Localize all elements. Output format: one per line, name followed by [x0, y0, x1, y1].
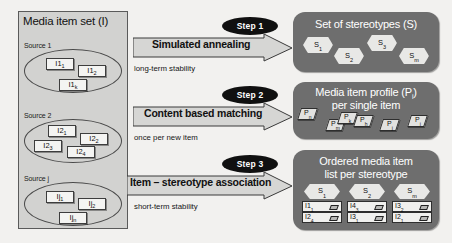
diagram-canvas: Media item set (I) Source 1 I11 I12 I1k …: [0, 0, 452, 243]
media-item: I24: [67, 146, 95, 158]
media-item-label: I1k: [68, 81, 77, 89]
step-2-badge: Step 2: [222, 86, 278, 104]
media-glyph-icon: [419, 216, 429, 221]
list-item: I32: [392, 201, 432, 212]
media-item-label: I12: [87, 67, 96, 75]
media-item: Ijn: [59, 212, 87, 224]
media-item-label: I21: [57, 127, 66, 135]
media-item: I22: [80, 133, 108, 145]
media-glyph-icon: [419, 205, 429, 210]
step-2-note: once per new item: [134, 133, 198, 142]
media-glyph-icon: [374, 216, 384, 221]
source-label-2: Source 2: [24, 112, 51, 119]
stereotype-set-panel: Set of stereotypes (S) S1 S2 S3 Sm: [293, 12, 439, 72]
list-item: I11: [302, 201, 342, 212]
media-item-label: Ij1: [57, 193, 64, 201]
stereotype-hexagon: S2: [334, 48, 364, 64]
ordered-media-item-list-panel: Ordered media item list per stereotype S…: [293, 150, 439, 230]
media-item: Ij2: [78, 198, 106, 210]
media-item-label: I11: [55, 60, 64, 68]
media-item: I11: [46, 58, 74, 70]
media-item-set-panel: Media item set (I) Source 1 I11 I12 I1k …: [18, 11, 128, 229]
list-item: I43: [347, 201, 387, 212]
step-3-badge: Step 3: [222, 155, 278, 173]
stereotype-hexagon: Sm: [399, 48, 429, 64]
stereotype-hexagon: S1: [303, 37, 333, 53]
media-item: I23: [34, 140, 62, 152]
media-glyph-icon: [329, 205, 339, 210]
source-label-1: Source 1: [24, 42, 51, 49]
ordered-list-title-line-1: Ordered media item: [293, 155, 439, 167]
media-item: I21: [48, 125, 76, 137]
list-item: I21: [392, 212, 432, 223]
stereotype-hexagon: S2: [349, 184, 385, 199]
profile-parallelogram: Pi: [407, 115, 428, 127]
step-2-label: Content based matching: [144, 107, 262, 119]
stereotype-hexagon: S1: [304, 184, 340, 199]
media-item: I12: [78, 65, 106, 77]
list-item: I24: [302, 212, 342, 223]
stereotype-hexagon: S3: [367, 35, 397, 51]
ordered-list-title-line-2: list per stereotype: [293, 168, 439, 180]
media-item-label: Ijn: [70, 214, 77, 222]
source-label-j: Source j: [24, 175, 49, 182]
step-1-badge: Step 1: [222, 17, 278, 35]
media-item-label: I24: [76, 148, 85, 156]
stereotype-hexagon: Sm: [394, 184, 430, 199]
media-item-set-title: Media item set (I): [23, 15, 108, 27]
stereotype-set-title: Set of stereotypes (S): [293, 18, 439, 30]
media-item: Ij1: [46, 191, 74, 203]
step-3-label: Item – stereotype association: [130, 176, 271, 188]
profile-parallelogram: Pj: [379, 119, 400, 131]
list-item: I31: [347, 212, 387, 223]
profile-parallelogram: Ph: [353, 115, 374, 127]
media-item-label: I23: [43, 142, 52, 150]
media-item: I1k: [59, 79, 87, 91]
media-item-label: I22: [89, 135, 98, 143]
media-glyph-icon: [329, 216, 339, 221]
step-1-label: Simulated annealing: [152, 38, 250, 50]
media-item-profile-panel: Media item profile (Pi) per single item …: [293, 82, 439, 139]
media-glyph-icon: [374, 205, 384, 210]
profile-parallelogram: Pn: [297, 108, 318, 120]
step-3-note: short-term stability: [134, 202, 198, 211]
media-item-label: Ij2: [89, 200, 96, 208]
step-1-note: long-term stability: [134, 64, 195, 73]
